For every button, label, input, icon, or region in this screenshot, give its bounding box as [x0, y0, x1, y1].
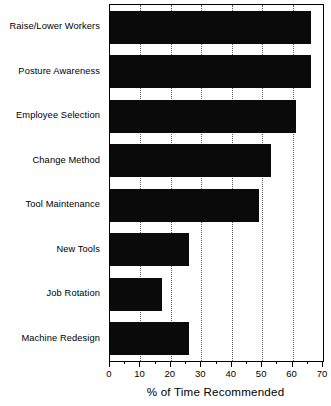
bar	[110, 100, 296, 133]
category-label: Raise/Lower Workers	[0, 21, 100, 31]
x-tick-major	[200, 361, 201, 367]
plot-area	[109, 4, 324, 362]
x-tick-major	[261, 361, 262, 367]
x-tick-label: 70	[307, 368, 331, 380]
x-tick-major	[292, 361, 293, 367]
x-tick-minor	[307, 361, 308, 364]
bar	[110, 278, 162, 311]
category-label: Job Rotation	[0, 288, 100, 298]
x-tick-minor	[185, 361, 186, 364]
x-tick-minor	[124, 361, 125, 364]
x-tick-label: 50	[246, 368, 276, 380]
x-axis-title: % of Time Recommended	[109, 384, 322, 399]
x-tick-minor	[155, 361, 156, 364]
x-tick-major	[139, 361, 140, 367]
bar	[110, 233, 189, 266]
x-tick-major	[109, 361, 110, 367]
category-label: Employee Selection	[0, 110, 100, 120]
x-tick-minor	[246, 361, 247, 364]
x-axis-tick-labels: 010203040506070	[0, 368, 331, 382]
category-label: Change Method	[0, 155, 100, 165]
x-tick-major	[322, 361, 323, 367]
category-label: Machine Redesign	[0, 333, 100, 343]
x-tick-label: 60	[277, 368, 307, 380]
bar	[110, 322, 189, 355]
category-label: New Tools	[0, 244, 100, 254]
bar	[110, 11, 311, 44]
category-label: Posture Awareness	[0, 66, 100, 76]
x-tick-label: 10	[124, 368, 154, 380]
x-tick-label: 40	[216, 368, 246, 380]
bar	[110, 189, 259, 222]
category-label: Tool Maintenance	[0, 199, 100, 209]
horizontal-bar-chart: Raise/Lower WorkersPosture AwarenessEmpl…	[0, 0, 331, 406]
x-tick-major	[231, 361, 232, 367]
x-tick-minor	[276, 361, 277, 364]
category-axis-labels: Raise/Lower WorkersPosture AwarenessEmpl…	[0, 4, 104, 360]
x-tick-label: 20	[155, 368, 185, 380]
bar	[110, 55, 311, 88]
x-tick-minor	[216, 361, 217, 364]
x-tick-label: 0	[94, 368, 124, 380]
x-tick-major	[170, 361, 171, 367]
bar	[110, 144, 271, 177]
x-tick-label: 30	[185, 368, 215, 380]
